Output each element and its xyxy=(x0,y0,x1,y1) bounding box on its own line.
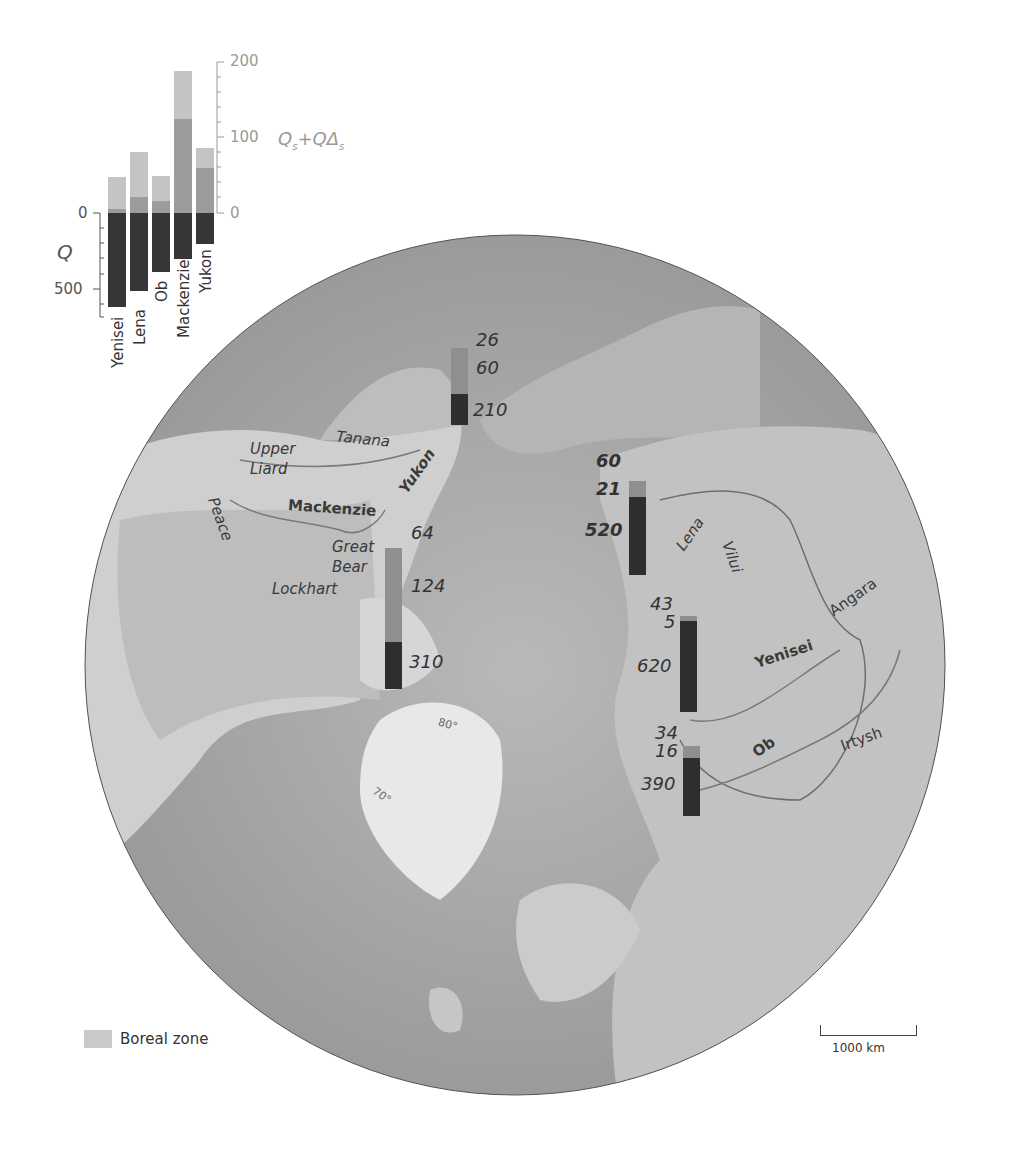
label-great: Great xyxy=(332,538,374,556)
lena-q-value: 520 xyxy=(585,519,623,540)
boreal-zone-swatch xyxy=(84,1030,112,1048)
boreal-zone-label: Boreal zone xyxy=(120,1030,208,1048)
mackenzie-qds-value: 64 xyxy=(411,522,434,543)
yenisei-q-value: 620 xyxy=(637,655,671,676)
lena-qs-value: 21 xyxy=(596,478,621,499)
legend: Boreal zone xyxy=(84,1030,208,1048)
scale-bar xyxy=(820,1025,917,1036)
ob-q-value: 390 xyxy=(641,773,675,794)
label-bear: Bear xyxy=(332,558,367,576)
ob-qs-value: 16 xyxy=(655,740,678,761)
mackenzie-qs-value: 124 xyxy=(411,575,445,596)
yukon-qs-value: 60 xyxy=(476,357,499,378)
yukon-q-value: 210 xyxy=(473,399,507,420)
label-lockhart: Lockhart xyxy=(272,580,337,598)
lena-qds-value: 60 xyxy=(596,450,621,471)
yukon-qds-value: 26 xyxy=(476,329,499,350)
yenisei-qs-value: 5 xyxy=(664,611,675,632)
scale-label: 1000 km xyxy=(832,1041,885,1055)
label-liard: Liard xyxy=(250,460,287,478)
mackenzie-q-value: 310 xyxy=(409,651,443,672)
label-upper: Upper xyxy=(250,440,295,458)
